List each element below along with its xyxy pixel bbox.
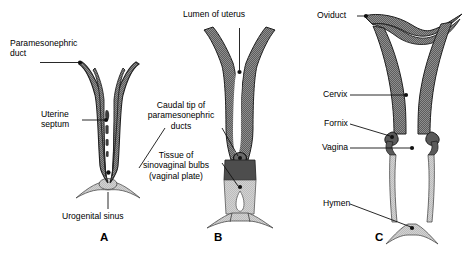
uterine-wall-left-c	[373, 26, 406, 134]
label-cervix: Cervix	[323, 89, 347, 99]
label-caudal-tip-of-paramesonephric-ducts: Caudal tip of paramesonephric ducts	[134, 100, 228, 131]
perineal-base-b	[207, 213, 273, 228]
label-paramesonephric-duct: Paramesonephric duct	[10, 38, 77, 59]
label-lumen-of-uterus: Lumen of uterus	[183, 9, 245, 19]
panel-letter-a: A	[100, 232, 108, 244]
panel-c-illustration	[364, 14, 462, 244]
uterine-septum-shape	[105, 110, 109, 157]
dot-paramesonephric-duct	[78, 60, 82, 64]
vaginal-canal-right	[427, 155, 434, 222]
dot-uterine-septum	[104, 118, 108, 122]
lumen-node	[237, 70, 241, 74]
leader-fornix	[350, 124, 390, 136]
vaginal-canal-left	[390, 155, 397, 222]
label-tissue-of-sinovaginal-bulbs: Tissue of sinovaginal bulbs (vaginal pla…	[130, 150, 222, 181]
dot-oviduct	[364, 14, 368, 18]
label-vagina: Vagina	[322, 142, 348, 152]
label-hymen: Hymen	[323, 198, 350, 208]
label-fornix: Fornix	[324, 118, 348, 128]
panel-letter-b: B	[214, 232, 222, 244]
label-oviduct: Oviduct	[317, 10, 346, 20]
sinovaginal-bulb-block	[224, 160, 256, 180]
dot-cervix	[404, 93, 408, 97]
fornix-node	[390, 135, 394, 139]
vaginal-plate-node	[238, 185, 242, 189]
leader-hymen	[350, 204, 411, 227]
caudal-tip-node-a	[106, 170, 110, 174]
vagina-node	[410, 146, 414, 150]
caudal-tip-node-b	[238, 156, 242, 160]
label-uterine-septum: Uterine septum	[41, 109, 69, 130]
label-urogenital-sinus: Urogenital sinus	[62, 211, 124, 221]
figure-canvas: Paramesonephric duct Uterine septum Urog…	[0, 0, 474, 256]
panel-letter-c: C	[375, 232, 383, 244]
sinus-node	[99, 179, 117, 190]
